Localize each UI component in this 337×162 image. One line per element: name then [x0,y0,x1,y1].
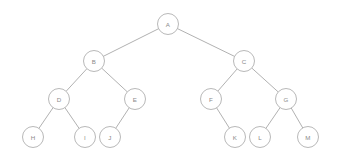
tree-diagram-svg: ABCDEFGHIJKLM [0,0,337,162]
tree-node-a[interactable]: A [158,14,179,35]
node-label-c: C [242,58,247,65]
edge-layer [39,29,303,129]
tree-edge-d-h [39,108,53,129]
tree-node-d[interactable]: D [49,89,70,110]
tree-edge-a-b [103,29,158,57]
tree-edge-b-e [102,68,128,92]
tree-node-k[interactable]: K [225,127,246,148]
tree-edge-c-g [252,68,278,92]
tree-edge-b-d [66,69,87,92]
tree-edge-d-i [65,108,79,129]
node-label-b: B [92,58,96,65]
tree-node-f[interactable]: F [201,89,222,110]
tree-edge-e-j [116,108,129,128]
tree-node-c[interactable]: C [234,51,255,72]
tree-node-l[interactable]: L [250,127,271,148]
node-label-f: F [209,96,213,103]
tree-edge-g-l [266,108,280,129]
tree-node-m[interactable]: M [298,127,319,148]
node-label-g: G [283,96,288,103]
node-label-k: K [233,134,238,141]
tree-node-e[interactable]: E [125,89,146,110]
tree-node-j[interactable]: J [100,127,121,148]
tree-edge-f-k [217,108,230,128]
tree-node-h[interactable]: H [23,127,44,148]
tree-edge-a-c [177,29,234,57]
node-label-h: H [31,134,36,141]
tree-node-b[interactable]: B [84,51,105,72]
node-label-d: D [57,96,62,103]
tree-edge-g-m [291,108,302,128]
node-label-l: L [258,134,262,141]
tree-node-i[interactable]: I [75,127,96,148]
node-label-e: E [133,96,137,103]
tree-node-g[interactable]: G [276,89,297,110]
node-layer: ABCDEFGHIJKLM [23,14,319,148]
node-label-m: M [305,134,310,141]
node-label-i: I [84,134,86,141]
node-label-a: A [166,21,171,28]
tree-diagram-canvas: ABCDEFGHIJKLM [0,0,337,162]
tree-edge-c-f [218,69,237,91]
node-label-j: J [108,134,111,141]
